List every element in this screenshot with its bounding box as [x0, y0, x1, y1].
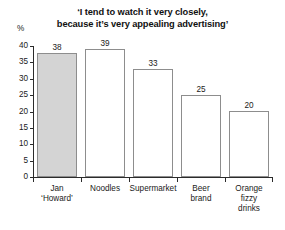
y-axis-tick-mark: [30, 62, 33, 63]
category-label-line: brand: [177, 194, 225, 204]
x-axis-tick-mark: [225, 178, 226, 182]
category-label-line: fizzy: [225, 194, 273, 204]
y-axis-tick-mark: [30, 112, 33, 113]
x-axis-category-label: Supermarket: [129, 184, 177, 194]
x-axis-category-label: Orangefizzydrinks: [225, 184, 273, 214]
bar: 20: [229, 111, 269, 177]
bar: 38: [37, 53, 77, 177]
x-axis-tick-mark: [272, 178, 273, 182]
x-axis-category-label: Beerbrand: [177, 184, 225, 204]
y-axis-tick-label: 30: [19, 75, 28, 83]
x-axis-tick-mark: [81, 178, 82, 182]
y-axis-tick-label: 0: [23, 173, 28, 181]
y-axis-tick-mark: [30, 79, 33, 80]
category-label-line: Jan: [33, 184, 81, 194]
y-axis-tick-label: 40: [19, 42, 28, 50]
x-axis-tick-mark: [33, 178, 34, 182]
y-axis-tick-mark: [30, 46, 33, 47]
y-axis-tick-label: 15: [19, 124, 28, 132]
y-axis-line: [33, 46, 34, 178]
bar-value-label: 33: [148, 60, 157, 68]
bar-value-label: 25: [196, 86, 205, 94]
y-axis-tick-mark: [30, 161, 33, 162]
chart-title: ‘I tend to watch it very closely, becaus…: [0, 7, 285, 30]
y-axis-tick-mark: [30, 95, 33, 96]
category-label-line: ‘Howard’: [33, 194, 81, 204]
category-label-line: Beer: [177, 184, 225, 194]
y-axis-unit-label: %: [17, 24, 24, 33]
y-axis-tick-mark: [30, 128, 33, 129]
category-label-line: Orange: [225, 184, 273, 194]
bar: 33: [133, 69, 173, 177]
y-axis-tick-label: 10: [19, 140, 28, 148]
bar-value-label: 38: [52, 44, 61, 52]
y-axis-tick-label: 25: [19, 91, 28, 99]
bar: 25: [181, 95, 221, 177]
y-axis-tick-mark: [30, 144, 33, 145]
x-axis-tick-mark: [129, 178, 130, 182]
category-label-line: Noodles: [81, 184, 129, 194]
bar-value-label: 39: [100, 40, 109, 48]
x-axis-line: [33, 177, 273, 178]
y-axis-tick-label: 5: [23, 157, 28, 165]
bar: 39: [85, 49, 125, 177]
x-axis-category-label: Jan‘Howard’: [33, 184, 81, 204]
chart-title-line-1: ‘I tend to watch it very closely,: [0, 7, 285, 19]
plot-area: 0510152025303540 3839332520: [33, 46, 273, 178]
bar-value-label: 20: [244, 102, 253, 110]
category-label-line: Supermarket: [129, 184, 177, 194]
y-axis-tick-label: 35: [19, 58, 28, 66]
x-axis-category-label: Noodles: [81, 184, 129, 194]
chart-title-line-2: because it’s very appealing advertising’: [0, 19, 285, 31]
x-axis-tick-mark: [177, 178, 178, 182]
y-axis-tick-label: 20: [19, 107, 28, 115]
category-label-line: drinks: [225, 204, 273, 214]
